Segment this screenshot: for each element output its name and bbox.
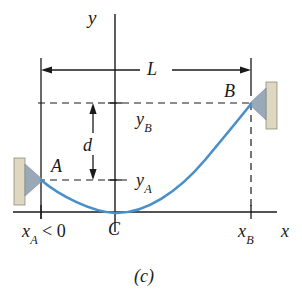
coordinate-yb-subscript: B: [144, 121, 151, 135]
support-right: [249, 82, 277, 129]
y-axis-label: y: [88, 8, 96, 27]
coordinate-xa-base: x: [22, 221, 30, 241]
point-label-b: B: [224, 82, 235, 100]
coordinate-label-xb: xB: [238, 222, 253, 244]
support-right-block: [266, 82, 277, 129]
point-label-c: C: [108, 220, 120, 238]
coordinate-xa-subscript: A: [30, 233, 37, 247]
point-label-a: A: [51, 157, 62, 175]
support-left-block: [14, 158, 25, 205]
coordinate-ya-base: y: [136, 170, 144, 190]
coordinate-label-ya: yA: [136, 171, 151, 193]
sag-label-d: d: [83, 136, 92, 154]
coordinate-label-xa-condition: xA < 0: [22, 222, 66, 244]
coordinate-ya-subscript: A: [144, 182, 151, 196]
diagram-canvas: [0, 0, 302, 305]
support-left: [14, 158, 43, 205]
coordinate-xb-subscript: B: [246, 233, 253, 247]
span-label-L: L: [147, 60, 157, 78]
coordinate-xb-base: x: [238, 221, 246, 241]
span-dimension-L: [41, 60, 251, 80]
coordinate-xa-condition-text: < 0: [37, 221, 65, 241]
catenary-figure: y x L d A B C yB yA xA < 0 xB (c): [0, 0, 302, 305]
x-axis-label: x: [281, 222, 289, 240]
coordinate-yb-base: y: [136, 109, 144, 129]
figure-caption: (c): [134, 267, 154, 285]
coordinate-label-yb: yB: [136, 110, 151, 132]
